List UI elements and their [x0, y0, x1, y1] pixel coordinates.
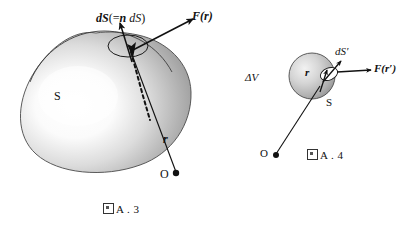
figure-page: dS(=n dS) F(r) S r O A . 3 dS′ F(r′) ΔV …: [0, 0, 411, 232]
label-sphere-position-vector-r: r: [305, 67, 309, 78]
label-volume-element-dV: ΔV: [245, 72, 258, 83]
caption-figure-a3: A . 3: [103, 203, 140, 215]
cjk-box-icon: [103, 203, 114, 214]
label-area-element-dS: dS(=n dS): [96, 12, 145, 24]
blob-highlight: [38, 66, 118, 126]
panel-right-figure: [273, 53, 371, 158]
cjk-box-icon-2: [307, 149, 318, 160]
label-dS-scalar: dS: [129, 11, 141, 25]
caption-a3-text: A . 3: [116, 203, 140, 215]
label-dS-paren-close: ): [141, 11, 145, 25]
caption-a4-text: A . 4: [320, 149, 344, 161]
label-field-vector-F: F(r): [192, 10, 213, 22]
panel-left-figure: [20, 19, 193, 176]
label-position-vector-r: r: [163, 133, 168, 145]
label-dS-paren-open: (=: [109, 11, 120, 25]
label-sphere-origin-O: O: [260, 148, 268, 159]
label-sphere-area-element: dS′: [335, 46, 348, 57]
caption-figure-a4: A . 4: [307, 149, 344, 161]
label-sphere-surface-S: S: [326, 97, 332, 108]
label-dS-vector: dS: [96, 11, 109, 25]
sphere-origin-dot: [273, 152, 279, 158]
sphere-field-vector-arrow: [337, 70, 371, 72]
label-dS-prime: dS′: [335, 45, 348, 57]
label-Fprime-argument: (r′): [381, 62, 396, 74]
figure-drawing: [0, 0, 411, 232]
sphere-position-vector-line: [276, 86, 320, 154]
label-F-symbol: F: [192, 9, 200, 23]
label-origin-O: O: [160, 168, 169, 180]
label-surface-S: S: [54, 90, 61, 102]
origin-dot: [173, 170, 179, 176]
label-sphere-field-vector: F(r′): [374, 63, 396, 74]
label-F-argument: (r): [200, 9, 213, 23]
